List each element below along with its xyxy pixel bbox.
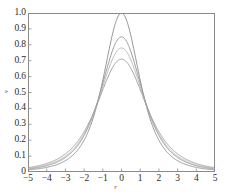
- y-tick-label: 1.0: [2, 8, 26, 18]
- y-tick-label: 0.8: [2, 40, 26, 50]
- y-axis-title: v: [3, 87, 10, 97]
- y-tick-label: 0.7: [2, 56, 26, 66]
- y-axis-ticks: 00.10.20.30.40.50.60.70.80.91.0: [0, 0, 26, 195]
- x-tick-label: −3: [55, 174, 75, 184]
- plot-canvas: [28, 13, 215, 172]
- x-axis-title: r: [0, 184, 231, 191]
- x-tick-label: −2: [74, 174, 94, 184]
- curves-svg: [28, 13, 215, 172]
- x-tick-label: 2: [149, 174, 169, 184]
- y-tick-label: 0.1: [2, 151, 26, 161]
- y-tick-label: 0.4: [2, 103, 26, 113]
- y-tick-label: 0.9: [2, 24, 26, 34]
- x-tick-label: 4: [186, 174, 206, 184]
- data-curve: [28, 48, 215, 169]
- x-tick-label: −4: [37, 174, 57, 184]
- data-curve: [28, 37, 215, 169]
- y-tick-label: 0.2: [2, 135, 26, 145]
- data-curve: [28, 59, 215, 168]
- figure: 00.10.20.30.40.50.60.70.80.91.0 −5−4−3−2…: [0, 0, 231, 195]
- y-tick-label: 0.6: [2, 72, 26, 82]
- x-tick-label: 3: [168, 174, 188, 184]
- x-tick-label: −5: [18, 174, 38, 184]
- x-tick-label: 1: [130, 174, 150, 184]
- x-tick-label: 5: [205, 174, 225, 184]
- y-tick-label: 0.3: [2, 119, 26, 129]
- x-tick-label: −1: [93, 174, 113, 184]
